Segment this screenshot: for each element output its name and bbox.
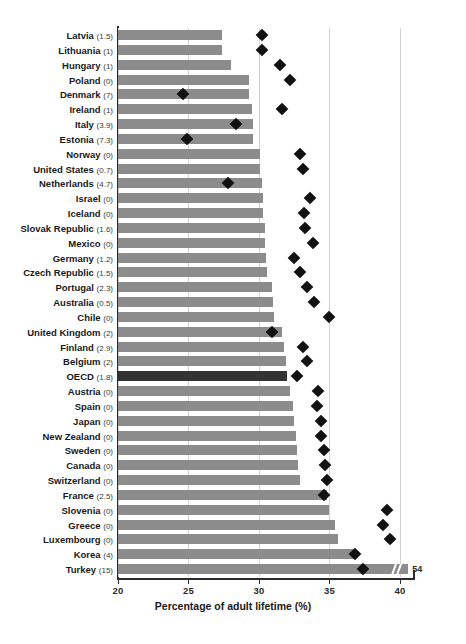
chart-row[interactable] [118,251,414,266]
chart-row[interactable] [118,443,414,458]
bar[interactable] [118,312,274,322]
bar[interactable] [118,193,263,203]
data-point-marker[interactable] [255,43,268,56]
chart-row[interactable] [118,518,414,533]
chart-row[interactable] [118,340,414,355]
data-point-marker[interactable] [293,266,306,279]
chart-row[interactable] [118,532,414,547]
data-point-marker[interactable] [308,296,321,309]
chart-row[interactable] [118,458,414,473]
chart-row[interactable] [118,87,414,102]
bar[interactable] [118,460,298,470]
bar[interactable] [118,475,300,485]
data-point-marker[interactable] [320,474,333,487]
chart-row[interactable] [118,503,414,518]
bar[interactable] [118,401,293,411]
data-point-marker[interactable] [293,147,306,160]
data-point-marker[interactable] [301,281,314,294]
bar[interactable] [118,30,222,40]
chart-row[interactable] [118,43,414,58]
bar[interactable] [118,549,355,559]
chart-row[interactable] [118,354,414,369]
data-point-marker[interactable] [299,222,312,235]
data-point-marker[interactable] [323,311,336,324]
data-point-marker[interactable] [296,340,309,353]
chart-row[interactable] [118,384,414,399]
chart-row[interactable] [118,117,414,132]
bar[interactable] [118,386,290,396]
bar[interactable] [118,327,282,337]
data-point-marker[interactable] [301,355,314,368]
bar[interactable] [118,431,296,441]
bar[interactable] [118,45,222,55]
data-point-marker[interactable] [384,533,397,546]
data-point-marker[interactable] [298,207,311,220]
data-point-marker[interactable] [303,192,316,205]
bar[interactable] [118,534,338,544]
bar[interactable] [118,164,260,174]
y-axis-label-mexico: Mexico (0) [1,236,113,252]
data-point-marker[interactable] [255,29,268,42]
data-point-marker[interactable] [315,414,328,427]
bar[interactable] [118,342,284,352]
bar[interactable] [118,223,265,233]
chart-row[interactable] [118,488,414,503]
chart-row[interactable] [118,191,414,206]
data-point-marker[interactable] [310,400,323,413]
data-point-marker[interactable] [381,503,394,516]
bar[interactable] [118,371,287,381]
chart-row[interactable] [118,473,414,488]
bar[interactable] [118,149,260,159]
chart-row[interactable] [118,310,414,325]
chart-row[interactable] [118,325,414,340]
bar[interactable] [118,75,249,85]
data-point-marker[interactable] [306,236,319,249]
chart-row[interactable] [118,147,414,162]
bar[interactable] [118,520,335,530]
chart-row[interactable] [118,369,414,384]
chart-row[interactable] [118,280,414,295]
data-point-marker[interactable] [275,103,288,116]
bar[interactable] [118,297,273,307]
chart-row[interactable]: 54 [118,562,414,577]
chart-row[interactable] [118,295,414,310]
data-point-marker[interactable] [377,518,390,531]
bar[interactable] [118,267,267,277]
chart-row[interactable] [118,414,414,429]
chart-row[interactable] [118,265,414,280]
bar[interactable] [118,356,286,366]
data-point-marker[interactable] [284,73,297,86]
bar[interactable] [118,253,266,263]
chart-row[interactable] [118,102,414,117]
bar[interactable] [118,60,231,70]
bar[interactable] [118,490,327,500]
chart-row[interactable] [118,176,414,191]
bar[interactable] [118,178,262,188]
data-point-marker[interactable] [288,251,301,264]
chart-row[interactable] [118,236,414,251]
data-point-marker[interactable] [319,459,332,472]
chart-row[interactable] [118,206,414,221]
bar[interactable] [118,208,263,218]
bar[interactable] [118,282,272,292]
bar[interactable] [118,445,297,455]
chart-row[interactable] [118,28,414,43]
bar[interactable] [118,104,252,114]
chart-row[interactable] [118,132,414,147]
chart-row[interactable] [118,399,414,414]
chart-row[interactable] [118,547,414,562]
data-point-marker[interactable] [274,58,287,71]
bar[interactable] [118,238,265,248]
data-point-marker[interactable] [315,429,328,442]
bar[interactable] [118,416,294,426]
chart-row[interactable] [118,221,414,236]
chart-row[interactable] [118,58,414,73]
data-point-marker[interactable] [312,385,325,398]
data-point-marker[interactable] [317,444,330,457]
bar[interactable] [118,505,329,515]
chart-row[interactable] [118,73,414,88]
data-point-marker[interactable] [296,162,309,175]
chart-row[interactable] [118,429,414,444]
data-point-marker[interactable] [291,370,304,383]
chart-row[interactable] [118,162,414,177]
